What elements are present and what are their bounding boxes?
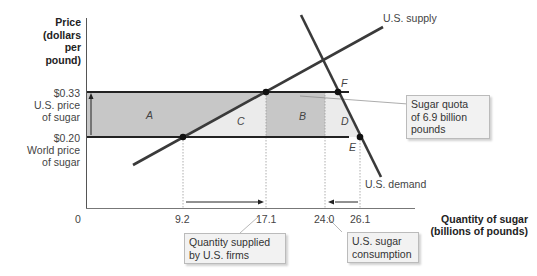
consumption-line1: U.S. sugar <box>352 235 414 248</box>
point-f <box>335 89 342 96</box>
point-world-supply <box>180 134 187 141</box>
x-title-line2: (billions of pounds) <box>400 225 528 237</box>
world-price-desc1: World price <box>10 144 80 156</box>
quota-line3: pounds <box>411 123 485 136</box>
world-price-desc2: of sugar <box>10 156 80 168</box>
x-title-line1: Quantity of sugar <box>400 213 528 225</box>
quota-callout: Sugar quota of 6.9 billion pounds <box>406 95 490 139</box>
y-title-line3: per <box>25 41 81 54</box>
x-tick-24-0: 24.0 <box>314 213 334 225</box>
point-e <box>357 134 364 141</box>
quota-line2: of 6.9 billion <box>411 111 485 124</box>
us-price-desc1: U.S. price <box>14 99 80 111</box>
us-price-label: $0.33 U.S. price of sugar <box>14 87 80 123</box>
area-c-label: C <box>237 115 245 127</box>
us-price-value: $0.33 <box>14 87 80 99</box>
y-title-line2: (dollars <box>25 29 81 42</box>
area-b-label: B <box>299 110 306 122</box>
x-axis-title: Quantity of sugar (billions of pounds) <box>400 213 528 237</box>
consumption-callout: U.S. sugar consumption <box>347 232 419 263</box>
y-title-line1: Price <box>25 16 81 29</box>
x-tick-26-1: 26.1 <box>350 213 370 225</box>
area-b <box>266 92 325 137</box>
point-f-label: F <box>341 77 347 89</box>
point-us-supply <box>263 89 270 96</box>
point-e-label: E <box>349 141 356 153</box>
demand-curve-label: U.S. demand <box>365 178 426 190</box>
supply-curve-label: U.S. supply <box>383 12 437 24</box>
x-tick-17-1: 17.1 <box>256 213 276 225</box>
x-tick-9-2: 9.2 <box>175 213 190 225</box>
area-a-label: A <box>146 109 153 121</box>
y-axis-title: Price (dollars per pound) <box>25 16 81 66</box>
supplied-line2: by U.S. firms <box>189 249 281 262</box>
world-price-value: $0.20 <box>10 132 80 144</box>
us-price-desc2: of sugar <box>14 111 80 123</box>
quota-line1: Sugar quota <box>411 98 485 111</box>
y-title-line4: pound) <box>25 54 81 67</box>
origin-label: 0 <box>75 213 81 225</box>
supplied-line1: Quantity supplied <box>189 236 281 249</box>
quantity-supplied-callout: Quantity supplied by U.S. firms <box>184 233 286 264</box>
world-price-label: $0.20 World price of sugar <box>10 132 80 168</box>
area-d-label: D <box>341 115 349 127</box>
consumption-line2: consumption <box>352 248 414 261</box>
